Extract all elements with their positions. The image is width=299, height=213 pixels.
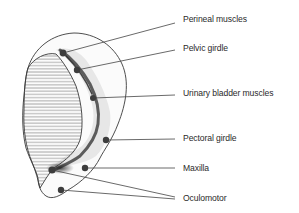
label-perineal-muscles: Perineal muscles — [183, 14, 247, 24]
dot-maxilla — [82, 165, 88, 171]
dot-pectoral — [103, 137, 109, 143]
dot-urinary — [90, 95, 96, 101]
label-pectoral-girdle: Pectoral girdle — [183, 133, 236, 143]
anatomy-diagram — [0, 0, 299, 213]
dot-perineal — [60, 50, 67, 57]
label-pelvic-girdle: Pelvic girdle — [183, 43, 228, 53]
label-oculomotor: Oculomotor — [183, 193, 226, 203]
dot-oculomotor-lower — [58, 187, 64, 193]
dot-oculomotor-upper — [48, 166, 55, 173]
label-maxilla: Maxilla — [183, 163, 209, 173]
dot-pelvic — [74, 67, 80, 73]
label-urinary-bladder-muscles: Urinary bladder muscles — [183, 88, 273, 98]
